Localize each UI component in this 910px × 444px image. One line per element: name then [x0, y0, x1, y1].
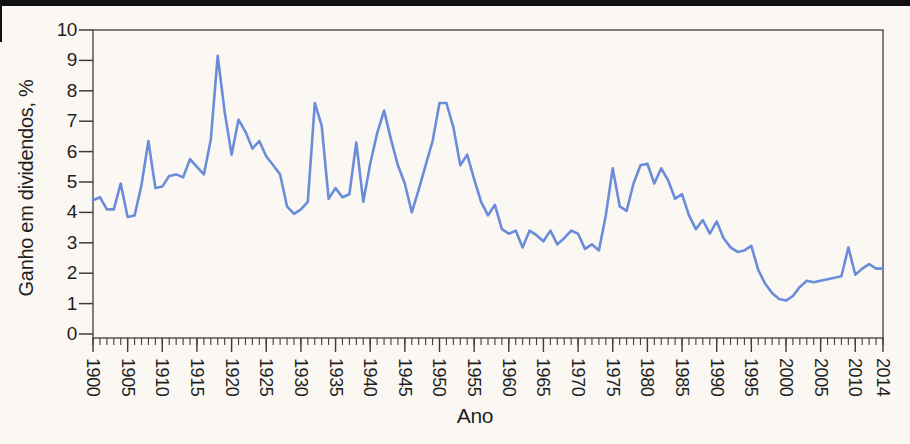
x-tick-label: 1940 [360, 358, 380, 397]
x-tick-label: 1920 [222, 358, 242, 397]
x-tick-label: 1975 [603, 358, 623, 397]
y-tick-label: 10 [57, 19, 77, 40]
x-tick-label: 2000 [776, 358, 796, 397]
x-tick-label: 1915 [187, 358, 207, 397]
x-tick-label: 1990 [707, 358, 727, 397]
x-tick-label: 1935 [326, 358, 346, 397]
x-tick-label: 1930 [291, 358, 311, 397]
plot-border [93, 30, 883, 338]
y-tick-label: 2 [67, 262, 77, 283]
y-tick-label: 4 [67, 201, 78, 222]
y-tick-label: 0 [67, 323, 77, 344]
x-tick-label: 2010 [845, 358, 865, 397]
series-line [93, 56, 883, 301]
x-tick-label: 1985 [672, 358, 692, 397]
x-tick-label: 1955 [464, 358, 484, 397]
y-tick-label: 5 [67, 171, 77, 192]
y-tick-label: 6 [67, 141, 77, 162]
y-tick-label: 3 [67, 232, 77, 253]
x-tick-label: 2014 [873, 358, 893, 397]
x-axis-title: Ano [400, 404, 550, 428]
x-tick-label: 1995 [741, 358, 761, 397]
y-tick-label: 8 [67, 80, 77, 101]
x-tick-label: 1960 [499, 358, 519, 397]
y-tick-label: 9 [67, 49, 77, 70]
line-chart: 0123456789101900190519101915192019251930… [0, 0, 910, 444]
x-tick-label: 2005 [811, 358, 831, 397]
x-tick-label: 1925 [256, 358, 276, 397]
x-tick-label: 1970 [568, 358, 588, 397]
x-tick-label: 1950 [429, 358, 449, 397]
x-tick-label: 1905 [118, 358, 138, 397]
x-tick-label: 1945 [395, 358, 415, 397]
x-tick-label: 1910 [152, 358, 172, 397]
y-tick-label: 7 [67, 110, 77, 131]
x-tick-label: 1965 [533, 358, 553, 397]
x-tick-label: 1980 [637, 358, 657, 397]
y-tick-label: 1 [67, 293, 77, 314]
y-axis-title: Ganho em dividendos, % [15, 68, 39, 308]
dividend-yield-figure: 0123456789101900190519101915192019251930… [0, 0, 910, 444]
x-tick-label: 1900 [83, 358, 103, 397]
